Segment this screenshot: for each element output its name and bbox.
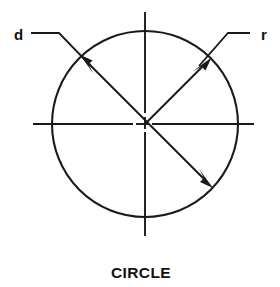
diameter-arrowhead-lower-right: [199, 169, 213, 188]
circle-diagram-canvas: d r CIRCLE: [0, 0, 280, 287]
radius-dimension-line: [145, 58, 212, 125]
diameter-label: d: [14, 26, 23, 43]
radius-leader-line: [199, 33, 250, 66]
radius-arrowhead-upper-right: [193, 58, 212, 72]
diameter-dimension-line: [80, 55, 214, 189]
circle-diagram-figure: d r CIRCLE: [0, 0, 280, 287]
figure-caption: CIRCLE: [111, 264, 171, 281]
diameter-leader-line: [31, 33, 91, 66]
radius-label: r: [261, 26, 267, 43]
